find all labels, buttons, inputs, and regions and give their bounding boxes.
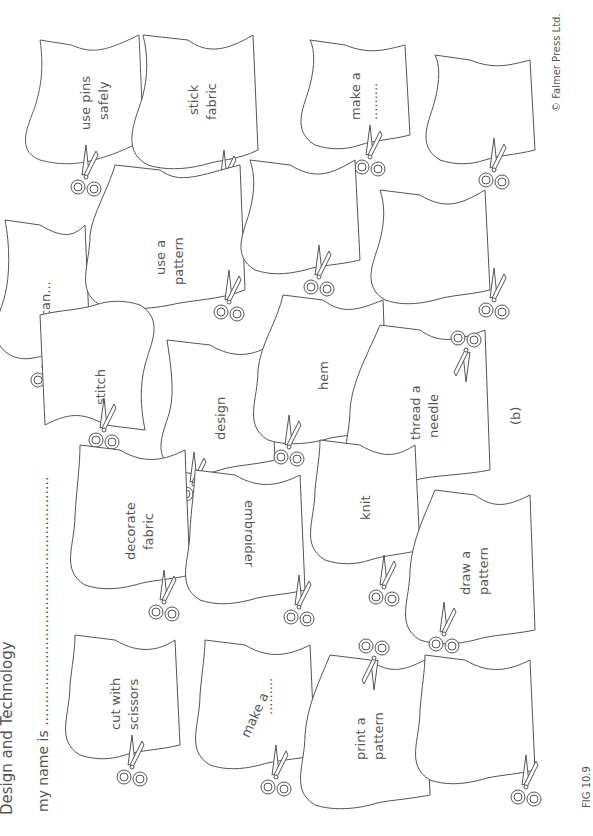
flag-label: stick xyxy=(186,84,201,115)
flag-decorate-fabric: decorate fabric xyxy=(71,445,190,589)
flag-stitch: stitch xyxy=(40,301,154,430)
flag-make-a-top: make a ......... xyxy=(301,40,410,149)
flag-label: ......... xyxy=(260,678,275,715)
flag-label: print a xyxy=(353,717,368,760)
flag-label: scissors xyxy=(126,679,141,730)
flag-use-a-pattern: use a pattern xyxy=(86,165,245,309)
flag-label: safely xyxy=(96,81,111,120)
flag-label: use a xyxy=(153,240,168,275)
flag-label: stitch xyxy=(93,369,108,405)
flag-label: hem xyxy=(316,361,331,390)
flag-label: decorate xyxy=(123,502,138,560)
flag-label: pattern xyxy=(371,712,386,760)
figure-label: FIG 10.9 xyxy=(581,766,592,808)
flag-label: pattern xyxy=(476,547,491,595)
flag-cut-with-scissors: cut with scissors xyxy=(66,635,180,759)
flag-label: ......... xyxy=(365,83,380,120)
flag-use-pins: use pins safely xyxy=(25,35,143,164)
copyright-notice: © Falmer Press Ltd. xyxy=(551,13,562,112)
flag-draw-a-pattern: draw a pattern xyxy=(406,490,535,644)
flag-label: fabric xyxy=(204,83,219,120)
flag-label: needle xyxy=(426,394,441,438)
flag-stick-fabric: stick fabric xyxy=(132,35,258,169)
worksheet-page: Design and Technology my name is .......… xyxy=(0,0,593,836)
flag-label: fabric xyxy=(141,513,156,550)
flag-label: design xyxy=(213,397,228,440)
worksheet-title: Design and Technology xyxy=(0,641,16,815)
name-prompt: my name is .............................… xyxy=(35,477,51,812)
flag-blank-mid-1 xyxy=(241,160,360,274)
flag-label: make a xyxy=(348,72,363,120)
flag-label: thread a xyxy=(408,385,423,440)
flag-blank-bottom xyxy=(416,655,535,784)
flag-blank-top xyxy=(426,55,535,164)
flag-label: pattern xyxy=(171,237,186,285)
flag-embroider: embroider xyxy=(186,470,305,604)
scissors-icon xyxy=(369,555,399,606)
part-label: (b) xyxy=(508,407,523,425)
flag-make-a-bottom: make a ......... xyxy=(196,640,315,769)
flag-label: embroider xyxy=(242,500,257,568)
flag-label: cut with xyxy=(108,678,123,730)
flag-blank-mid-2 xyxy=(371,190,490,304)
flag-label: draw a xyxy=(458,551,473,595)
flag-label: use pins xyxy=(78,76,93,130)
flag-label: knit xyxy=(358,496,373,520)
flag-knit: knit xyxy=(311,440,420,564)
